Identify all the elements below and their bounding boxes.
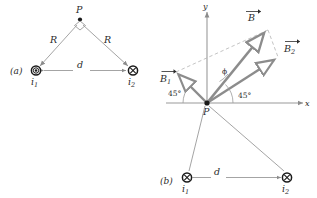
panel-b-distance-label: d <box>214 166 220 177</box>
panel-a-wire-i1-label: i1 <box>31 76 38 89</box>
panel-a-wire-i2-label: i2 <box>128 76 135 89</box>
panel-b-vector-b2-label: B2 <box>283 43 295 56</box>
panel-b-line-p-to-i2 <box>209 106 284 171</box>
panel-b-dashed-line-b1-to-b <box>176 30 268 72</box>
panel-b-wire-i1 <box>182 173 191 182</box>
panel-b-vector-b1-arrow <box>179 75 208 104</box>
figure-svg: (a) P R R d i1 i2 (b) <box>0 0 317 198</box>
panel-b-y-axis-label: y <box>202 2 208 11</box>
panel-b: (b) y x B1 B2 B 45° 45° ϕ <box>159 2 310 196</box>
panel-b-vector-b1-overline-arrowhead-icon <box>174 69 177 73</box>
panel-b-vector-b-overline-arrowhead-icon <box>258 9 261 13</box>
panel-a-radius-right-label: R <box>103 34 111 45</box>
panel-b-angle-left-arc <box>183 86 190 103</box>
panel-a-wire-i1-center-dot-icon <box>35 69 38 72</box>
panel-b-vector-b2-overline-arrowhead-icon <box>297 39 300 43</box>
panel-b-wire-i2 <box>282 173 291 182</box>
panel-a-label: (a) <box>10 66 23 76</box>
panel-b-angle-left-label: 45° <box>168 89 182 98</box>
panel-b-angle-phi-label: ϕ <box>222 67 227 76</box>
panel-b-vector-b-label: B <box>247 12 255 23</box>
panel-a-wire-i1 <box>31 66 40 75</box>
panel-a-radius-right-line <box>83 25 128 66</box>
panel-a-distance-label: d <box>77 59 83 70</box>
panel-b-label: (b) <box>160 176 173 186</box>
physics-figure: (a) P R R d i1 i2 (b) <box>0 0 317 198</box>
panel-b-wire-i2-label: i2 <box>282 183 289 196</box>
panel-b-dashed-line-b-to-b2 <box>268 30 278 57</box>
panel-b-origin-marker <box>204 100 209 105</box>
panel-b-angle-right-label: 45° <box>238 91 252 100</box>
panel-a-point-p-label: P <box>75 4 83 15</box>
panel-a-radius-left-line <box>40 25 77 66</box>
panel-a-wire-i2 <box>128 66 137 75</box>
panel-b-vector-b-arrow <box>207 33 264 103</box>
panel-b-wire-i1-label: i1 <box>182 183 189 196</box>
panel-b-x-axis-label: x <box>305 99 310 108</box>
panel-b-line-p-to-i1 <box>189 106 205 171</box>
panel-a-radius-left-label: R <box>49 34 57 45</box>
panel-a: (a) P R R d i1 i2 <box>10 4 138 89</box>
panel-b-vector-b1-label: B1 <box>159 73 171 86</box>
